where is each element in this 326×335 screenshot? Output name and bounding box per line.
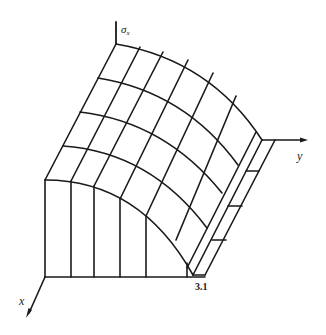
x-axis xyxy=(26,277,45,318)
surface-diagram: σx y x 3.1 xyxy=(0,0,326,335)
y-axis-arrow-icon xyxy=(300,138,308,143)
surface-column-lines xyxy=(71,47,236,240)
y-axis-label: y xyxy=(296,149,303,163)
x-axis-arrow-icon xyxy=(26,308,32,318)
surface-front-edge xyxy=(45,180,193,275)
x-axis-label: x xyxy=(18,294,25,308)
sigma-axis-label: σx xyxy=(121,23,130,37)
corner-value-label: 3.1 xyxy=(195,281,208,292)
edge-strip xyxy=(187,132,275,275)
y-axis xyxy=(262,138,308,143)
front-face-verticals xyxy=(45,180,187,277)
